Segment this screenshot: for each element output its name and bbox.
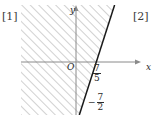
x-intercept-denominator: 5 [93,73,101,83]
y-intercept-label: − 7 2 [88,92,104,112]
x-intercept-fraction: 7 5 [93,64,101,84]
y-axis-label: y [70,6,75,15]
x-axis-label: x [146,63,151,72]
y-intercept-fraction: 7 2 [97,93,105,113]
y-intercept-sign: − [88,98,96,107]
x-intercept-label: 7 5 [93,64,101,84]
plot-svg [21,5,141,115]
shaded-region [21,5,141,115]
figure-container: [1] [2] [0,0,162,115]
x-intercept-numerator: 7 [93,64,101,73]
coordinate-plot [21,5,141,115]
y-intercept-denominator: 2 [97,102,105,112]
y-intercept-numerator: 7 [97,93,105,102]
figure-tag-left: [1] [2,10,18,23]
origin-label: O [67,63,74,72]
